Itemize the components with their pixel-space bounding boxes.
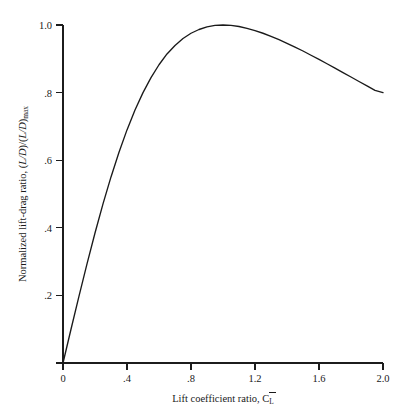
x-axis-title-subscript: L bbox=[269, 397, 274, 406]
y-axis-title: Normalized lift-drag ratio, (L/D)/(L/D)m… bbox=[17, 106, 30, 282]
x-axis-title-text: Lift coefficient ratio, bbox=[172, 393, 262, 404]
x-axis-title-symbol: C bbox=[262, 393, 269, 404]
figure-root: 1.0 .8 .6 .4 .2 0 .4 .8 1.2 1.6 2.0 Lift… bbox=[0, 0, 409, 418]
y-tick-label: .8 bbox=[44, 88, 52, 99]
y-tick-label: .4 bbox=[44, 223, 53, 234]
x-tick-label: 0 bbox=[60, 373, 65, 384]
x-tick-label: 1.2 bbox=[248, 373, 261, 384]
y-axis-title-mid: )/( bbox=[17, 138, 29, 148]
y-axis-title-ld-1: L/D bbox=[17, 148, 28, 166]
y-axis-title-text: Normalized lift-drag ratio, bbox=[17, 168, 28, 282]
y-tick-label: .6 bbox=[44, 155, 52, 166]
y-axis-title-subscript: max bbox=[21, 106, 30, 119]
line-chart: 1.0 .8 .6 .4 .2 0 .4 .8 1.2 1.6 2.0 Lift… bbox=[0, 0, 409, 418]
chart-background bbox=[0, 0, 409, 418]
x-tick-label: 1.6 bbox=[312, 373, 325, 384]
x-axis-title: Lift coefficient ratio, CL bbox=[172, 393, 274, 406]
y-tick-label: 1.0 bbox=[39, 20, 52, 31]
y-axis-title-ld-2: L/D bbox=[17, 122, 28, 140]
x-tick-label: .8 bbox=[187, 373, 195, 384]
y-tick-label: .2 bbox=[44, 290, 52, 301]
x-tick-label: 2.0 bbox=[376, 373, 389, 384]
x-tick-label: .4 bbox=[123, 373, 132, 384]
